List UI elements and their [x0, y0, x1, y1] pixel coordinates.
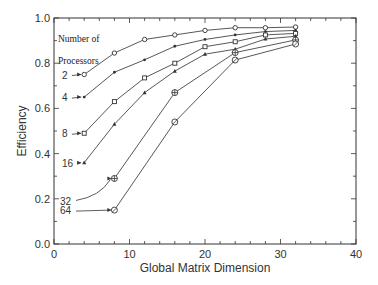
- arrow-icon: [76, 210, 110, 211]
- series-label-64: 64: [60, 205, 72, 216]
- marker-square: [112, 100, 116, 104]
- x-tick-label: 40: [350, 248, 362, 260]
- arrowhead-icon: [107, 208, 111, 212]
- series-line-8: [84, 33, 295, 133]
- x-tick-label: 20: [199, 248, 211, 260]
- marker-dot: [234, 34, 237, 37]
- marker-dot: [83, 96, 86, 99]
- marker-circle: [112, 51, 116, 55]
- marker-dot: [173, 45, 176, 48]
- arrowhead-icon: [107, 176, 111, 180]
- y-tick-label: 0.4: [35, 148, 50, 160]
- x-tick-label: 30: [274, 248, 286, 260]
- marker-triangle: [143, 90, 147, 94]
- efficiency-chart: 0102030400.00.20.40.60.81.0248163264 Glo…: [0, 0, 378, 285]
- y-tick-label: 1.0: [35, 12, 50, 24]
- y-tick-label: 0.0: [35, 238, 50, 250]
- arrowhead-icon: [77, 73, 81, 77]
- y-tick-label: 0.2: [35, 193, 50, 205]
- y-axis-title: Efficiency: [15, 105, 29, 156]
- x-tick-label: 0: [51, 248, 57, 260]
- arrowhead-icon: [77, 131, 81, 135]
- marker-square: [233, 40, 237, 44]
- marker-circle: [173, 33, 177, 37]
- marker-dot: [143, 58, 146, 61]
- legend-title-line-2: Processors: [58, 56, 99, 66]
- y-tick-label: 0.8: [35, 57, 50, 69]
- legend-title-line-1: Number of: [58, 34, 100, 44]
- series-label-8: 8: [62, 128, 68, 139]
- marker-square: [173, 61, 177, 65]
- marker-circle: [203, 28, 207, 32]
- series-label-2: 2: [62, 70, 68, 81]
- marker-circle: [293, 25, 297, 29]
- marker-square: [263, 33, 267, 37]
- marker-square: [143, 76, 147, 80]
- arrowhead-icon: [77, 161, 81, 165]
- series-line-64: [114, 44, 295, 210]
- marker-square: [203, 45, 207, 49]
- x-axis-title: Global Matrix Dimension: [140, 261, 271, 275]
- marker-square: [82, 131, 86, 135]
- marker-circle: [142, 37, 146, 41]
- plot-area: 0102030400.00.20.40.60.81.0248163264: [35, 12, 362, 260]
- y-tick-label: 0.6: [35, 102, 50, 114]
- arrowhead-icon: [77, 95, 81, 99]
- marker-dot: [204, 38, 207, 41]
- x-tick-label: 10: [123, 248, 135, 260]
- marker-circle: [263, 26, 267, 30]
- marker-circle: [233, 26, 237, 30]
- marker-circle: [82, 72, 86, 76]
- arrow-icon: [76, 179, 110, 200]
- marker-dot: [113, 71, 116, 74]
- series-label-4: 4: [62, 92, 68, 103]
- series-label-16: 16: [62, 158, 74, 169]
